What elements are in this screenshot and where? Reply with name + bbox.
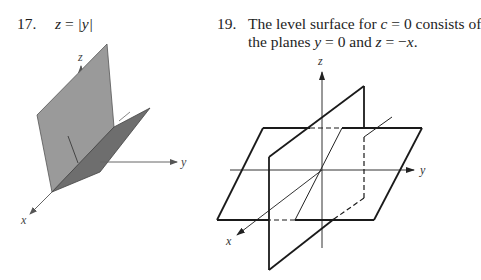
x-axis-label: x [20,213,27,227]
z-axis-label: z [317,54,323,68]
z-axis-label: z [77,50,83,64]
x-axis-label: x [225,234,232,248]
figure-19: z y x [217,54,426,270]
intersection-line [295,128,342,220]
plane-z-equals-minus-x [217,128,422,220]
x-axis [237,170,322,235]
back-thin-line [364,117,392,137]
y-axis-label: y [419,163,426,177]
y-axis-label: y [180,155,187,169]
figure-17: z y x [20,44,187,227]
x-axis [30,192,52,214]
